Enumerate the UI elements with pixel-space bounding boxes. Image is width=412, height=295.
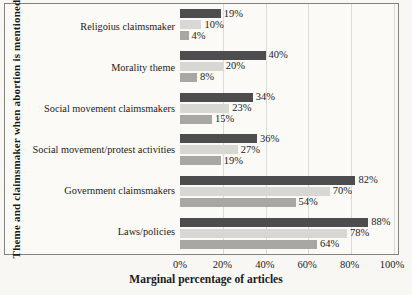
bar-value-label: 4% bbox=[192, 31, 206, 42]
category-label: Religoius claimsmaker bbox=[27, 6, 180, 47]
bar-row: 36% bbox=[180, 134, 394, 143]
plot-area: 19%10%4%40%20%8%34%23%15%36%27%19%82%70%… bbox=[180, 4, 398, 254]
bar-group: 88%78%64% bbox=[180, 212, 394, 254]
y-axis-title: Theme and claimsmaker when abortion is m… bbox=[5, 4, 27, 254]
bar-value-label: 10% bbox=[204, 20, 223, 31]
bar-medium-gray bbox=[180, 240, 317, 249]
x-tick-label: 80% bbox=[340, 259, 359, 270]
bar-light-gray bbox=[180, 62, 223, 71]
bar-dark-gray bbox=[180, 176, 355, 185]
x-axis-ticks: 0%20%40%60%80%100% bbox=[180, 259, 392, 272]
category-label: Social movement claimsmakers bbox=[27, 88, 180, 129]
bar-value-label: 27% bbox=[241, 145, 260, 156]
bar-group: 40%20%8% bbox=[180, 46, 394, 88]
category-labels: Religoius claimsmakerMorality themeSocia… bbox=[27, 4, 180, 254]
bar-dark-gray bbox=[180, 134, 257, 143]
bar-value-label: 20% bbox=[226, 61, 245, 72]
bar-value-label: 82% bbox=[358, 175, 377, 186]
figure: Theme and claimsmaker when abortion is m… bbox=[0, 0, 412, 295]
bar-dark-gray bbox=[180, 218, 368, 227]
bar-value-label: 36% bbox=[260, 134, 279, 145]
bar-value-label: 54% bbox=[299, 197, 318, 208]
bar-value-label: 78% bbox=[350, 228, 369, 239]
bar-light-gray bbox=[180, 145, 238, 154]
plot-inner: 19%10%4%40%20%8%34%23%15%36%27%19%82%70%… bbox=[180, 4, 394, 254]
bar-group: 36%27%19% bbox=[180, 129, 394, 171]
bar-medium-gray bbox=[180, 115, 212, 124]
bar-value-label: 34% bbox=[256, 92, 275, 103]
bar-row: 78% bbox=[180, 229, 394, 238]
bar-row: 23% bbox=[180, 104, 394, 113]
bar-row: 88% bbox=[180, 218, 394, 227]
bar-dark-gray bbox=[180, 9, 221, 18]
bar-value-label: 15% bbox=[215, 114, 234, 125]
bar-value-label: 70% bbox=[333, 186, 352, 197]
bar-row: 70% bbox=[180, 187, 394, 196]
bar-light-gray bbox=[180, 104, 229, 113]
bar-value-label: 19% bbox=[224, 156, 243, 167]
bar-value-label: 88% bbox=[371, 217, 390, 228]
bar-row: 64% bbox=[180, 240, 394, 249]
bar-light-gray bbox=[180, 229, 347, 238]
bar-row: 4% bbox=[180, 31, 394, 40]
bar-medium-gray bbox=[180, 73, 197, 82]
chart-box: Theme and claimsmaker when abortion is m… bbox=[4, 3, 399, 255]
bar-medium-gray bbox=[180, 31, 189, 40]
x-tick-label: 0% bbox=[173, 259, 187, 270]
bar-row: 82% bbox=[180, 176, 394, 185]
bar-value-label: 23% bbox=[232, 103, 251, 114]
x-tick-label: 60% bbox=[298, 259, 317, 270]
x-axis-title: Marginal percentage of articles bbox=[0, 273, 412, 285]
x-tick-label: 20% bbox=[213, 259, 232, 270]
category-label: Social movement/protest activities bbox=[27, 129, 180, 170]
bar-row: 8% bbox=[180, 73, 394, 82]
y-axis-title-text: Theme and claimsmaker when abortion is m… bbox=[10, 0, 22, 258]
x-tick-label: 40% bbox=[255, 259, 274, 270]
bar-medium-gray bbox=[180, 198, 296, 207]
bar-value-label: 64% bbox=[320, 239, 339, 250]
bar-row: 15% bbox=[180, 115, 394, 124]
bar-light-gray bbox=[180, 20, 201, 29]
bar-groups: 19%10%4%40%20%8%34%23%15%36%27%19%82%70%… bbox=[180, 4, 394, 254]
gridline bbox=[394, 4, 395, 254]
bar-row: 54% bbox=[180, 198, 394, 207]
bar-row: 10% bbox=[180, 20, 394, 29]
bar-group: 34%23%15% bbox=[180, 87, 394, 129]
category-label: Morality theme bbox=[27, 47, 180, 88]
bar-dark-gray bbox=[180, 51, 266, 60]
bar-dark-gray bbox=[180, 93, 253, 102]
bar-light-gray bbox=[180, 187, 330, 196]
bar-row: 34% bbox=[180, 93, 394, 102]
bar-group: 82%70%54% bbox=[180, 171, 394, 213]
bar-medium-gray bbox=[180, 156, 221, 165]
category-label: Laws/policies bbox=[27, 211, 180, 252]
bar-group: 19%10%4% bbox=[180, 4, 394, 46]
bar-row: 20% bbox=[180, 62, 394, 71]
bar-value-label: 8% bbox=[200, 72, 214, 83]
bar-row: 19% bbox=[180, 9, 394, 18]
bar-value-label: 40% bbox=[269, 50, 288, 61]
bar-row: 27% bbox=[180, 145, 394, 154]
bar-row: 40% bbox=[180, 51, 394, 60]
bar-row: 19% bbox=[180, 156, 394, 165]
bar-value-label: 19% bbox=[224, 9, 243, 20]
x-tick-label: 100% bbox=[380, 259, 405, 270]
category-label: Government claimsmakers bbox=[27, 170, 180, 211]
